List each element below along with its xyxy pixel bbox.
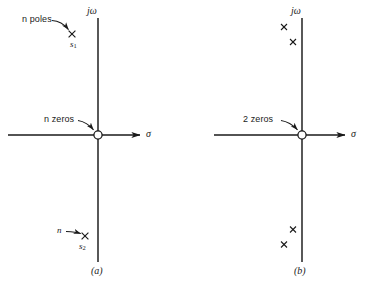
panel-b-graphics [214,18,345,262]
panel-a-pole-s1-label: s1 [70,40,77,50]
panel-a-zero-marker [94,131,102,139]
panel-a-imaginary-axis-label: jω [87,5,97,16]
panel-a-n-leader-arrow [66,232,81,234]
panel-b-zeros-leader-arrow [281,121,298,130]
panel-b-zero-marker [298,131,306,139]
pole-zero-figure: jω σ n poles s1 n zeros n s2 (a) jω σ 2 … [0,0,377,286]
panel-b-pole-marker-1 [281,24,287,30]
panel-a-pole-s1-subscript: 1 [74,42,77,49]
panel-b-pole-marker-4 [281,242,287,248]
panel-a-pole-s2-marker [82,233,89,240]
panel-a-caption: (a) [91,265,103,276]
panel-a-poles-leader-arrow [52,21,69,30]
figure-vector-layer [0,0,377,286]
panel-a-real-axis-label: σ [146,128,151,139]
panel-a-graphics [8,18,140,262]
panel-a-poles-label: n poles [22,15,52,24]
panel-b-pole-marker-3 [290,227,296,233]
panel-a-poles-label-text: poles [27,14,52,24]
panel-a-pole-s1-marker [69,31,76,38]
panel-a-zeros-label-text: zeros [49,114,74,124]
panel-b-zeros-label: 2 zeros [243,115,273,124]
panel-a-pole-s2-subscript: 2 [83,244,86,251]
panel-b-imaginary-axis-label: jω [291,5,301,16]
panel-a-n-label: n [57,226,62,235]
panel-a-zeros-leader-arrow [78,121,94,130]
panel-b-pole-marker-2 [290,39,296,45]
panel-b-real-axis-label: σ [351,128,356,139]
panel-a-zeros-label: n zeros [44,115,74,124]
panel-a-pole-s2-label: s2 [79,242,86,252]
panel-b-caption: (b) [294,265,306,276]
